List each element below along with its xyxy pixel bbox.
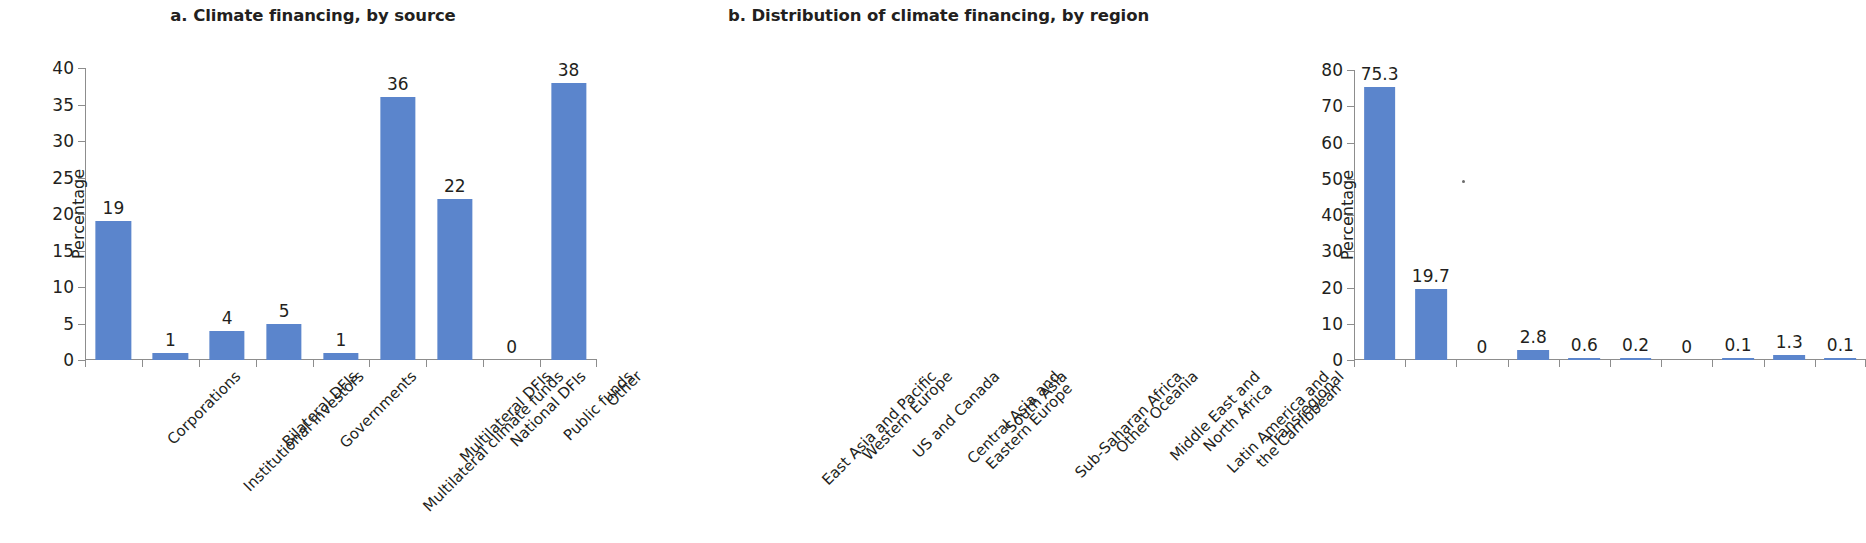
bar-slot: 75.3 <box>1354 70 1405 360</box>
bar[interactable] <box>437 199 472 360</box>
bar-slot: 19 <box>85 68 142 360</box>
bar-slot: 0.1 <box>1712 70 1763 360</box>
bar[interactable] <box>323 353 358 360</box>
y-tick-label: 10 <box>52 277 74 297</box>
y-tick-label: 70 <box>1321 96 1343 116</box>
bar[interactable] <box>380 97 415 360</box>
y-tick <box>1347 324 1354 325</box>
y-tick <box>78 68 85 69</box>
y-tick-label: 0 <box>63 350 74 370</box>
y-tick-label: 80 <box>1321 60 1343 80</box>
y-tick <box>1347 106 1354 107</box>
y-tick <box>1347 215 1354 216</box>
bar-value-label: 1 <box>165 330 176 350</box>
y-tick <box>78 360 85 361</box>
x-tick <box>1661 360 1662 367</box>
x-tick <box>256 360 257 367</box>
y-tick <box>78 214 85 215</box>
chart-a-title: a. Climate financing, by source <box>0 6 626 25</box>
y-tick <box>78 287 85 288</box>
x-axis-category-label: Multilateral climate funds <box>420 368 567 515</box>
x-tick <box>369 360 370 367</box>
bar[interactable] <box>1722 358 1754 360</box>
bar-value-label: 22 <box>444 176 466 196</box>
bar-slot: 1 <box>142 68 199 360</box>
bar-value-label: 5 <box>279 301 290 321</box>
x-tick <box>1610 360 1611 367</box>
bar[interactable] <box>210 331 245 360</box>
x-tick <box>1456 360 1457 367</box>
y-tick-label: 30 <box>52 131 74 151</box>
bar-value-label: 36 <box>387 74 409 94</box>
y-tick-label: 5 <box>63 314 74 334</box>
y-tick <box>78 251 85 252</box>
bar-value-label: 0 <box>1681 337 1692 357</box>
x-tick <box>313 360 314 367</box>
bar[interactable] <box>1825 358 1857 360</box>
chart-panel-b: b. Distribution of climate financing, by… <box>626 0 1251 543</box>
bar[interactable] <box>96 221 131 360</box>
y-tick <box>1347 288 1354 289</box>
x-tick <box>1815 360 1816 367</box>
bar-value-label: 2.8 <box>1520 327 1547 347</box>
bar[interactable] <box>551 83 586 360</box>
bar-value-label: 0.1 <box>1724 335 1751 355</box>
bar[interactable] <box>1415 289 1447 360</box>
bar[interactable] <box>266 324 301 361</box>
y-tick-label: 20 <box>1321 278 1343 298</box>
bar[interactable] <box>1517 350 1549 360</box>
bar[interactable] <box>1620 358 1652 360</box>
y-tick <box>1347 70 1354 71</box>
bar-slot: 4 <box>199 68 256 360</box>
y-tick <box>1347 143 1354 144</box>
y-tick-label: 25 <box>52 168 74 188</box>
bar-value-label: 19.7 <box>1412 266 1450 286</box>
x-axis-category-label: Corporations <box>164 368 244 448</box>
chart-panel-a: a. Climate financing, by source Percenta… <box>0 0 626 543</box>
y-tick <box>1347 179 1354 180</box>
bar-slot: 2.8 <box>1508 70 1559 360</box>
x-tick <box>540 360 541 367</box>
x-axis-category-label: East Asia and Pacific <box>819 368 940 489</box>
bar[interactable] <box>1773 355 1805 360</box>
y-tick <box>78 105 85 106</box>
bar-value-label: 1.3 <box>1776 332 1803 352</box>
x-axis-category-label: Sub-Saharan Africa <box>1072 368 1186 482</box>
y-tick-label: 10 <box>1321 314 1343 334</box>
x-tick <box>1712 360 1713 367</box>
bar-slot: 36 <box>369 68 426 360</box>
y-tick-label: 15 <box>52 241 74 261</box>
bar[interactable] <box>1364 87 1396 360</box>
x-tick <box>142 360 143 367</box>
y-tick-label: 20 <box>52 204 74 224</box>
bar-slot: 0 <box>1661 70 1712 360</box>
chart-b-title: b. Distribution of climate financing, by… <box>626 6 1251 25</box>
bar[interactable] <box>1569 358 1601 360</box>
x-tick <box>1508 360 1509 367</box>
y-tick-label: 40 <box>52 58 74 78</box>
bar-value-label: 4 <box>222 308 233 328</box>
y-tick <box>78 324 85 325</box>
bar-slot: 22 <box>426 68 483 360</box>
y-tick-label: 40 <box>1321 205 1343 225</box>
x-tick <box>426 360 427 367</box>
chart-a-plot-area: Percentage 05101520253035401914513622038 <box>85 68 597 360</box>
x-tick <box>199 360 200 367</box>
bar-slot: 19.7 <box>1405 70 1456 360</box>
y-tick <box>78 141 85 142</box>
y-tick-label: 35 <box>52 95 74 115</box>
bar-slot: 0 <box>483 68 540 360</box>
y-tick <box>78 178 85 179</box>
y-tick-label: 50 <box>1321 169 1343 189</box>
chart-b-plot-area: Percentage 0102030405060708075.319.702.8… <box>1354 70 1866 360</box>
x-tick <box>596 360 597 367</box>
x-tick <box>85 360 86 367</box>
bar-slot: 38 <box>540 68 597 360</box>
x-tick <box>1354 360 1355 367</box>
x-tick <box>483 360 484 367</box>
bar[interactable] <box>153 353 188 360</box>
bar-value-label: 0 <box>1477 337 1488 357</box>
bar-value-label: 0.1 <box>1827 335 1854 355</box>
bar-slot: 1.3 <box>1764 70 1815 360</box>
bar-slot: 0.2 <box>1610 70 1661 360</box>
